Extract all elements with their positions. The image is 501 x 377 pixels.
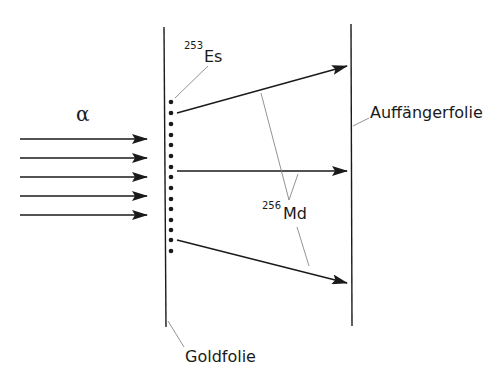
target-dot xyxy=(169,197,174,202)
md-symbol: Md xyxy=(283,204,307,223)
gold-foil-line xyxy=(164,27,166,327)
target-dot xyxy=(169,143,174,148)
catcher-foil-leader xyxy=(353,118,369,126)
md-recoil-arrows xyxy=(177,66,347,283)
alpha-beam-arrows xyxy=(20,139,147,215)
target-dot xyxy=(169,100,174,105)
es-target-dots xyxy=(169,100,174,254)
recoil-arrow-up xyxy=(177,66,347,113)
target-dot xyxy=(169,175,174,180)
target-dot xyxy=(169,165,174,170)
es-leader xyxy=(175,66,208,98)
target-dot xyxy=(169,218,174,223)
catcher-foil-line xyxy=(351,24,352,326)
md-mass-number: 256 xyxy=(262,200,281,211)
target-dot xyxy=(169,249,174,254)
recoil-arrow-down xyxy=(177,240,347,283)
gold-foil-label: Goldfolie xyxy=(185,347,256,366)
md-leader-top xyxy=(261,93,289,200)
md-leader-bottom xyxy=(297,227,309,266)
target-dot xyxy=(169,228,174,233)
target-dot xyxy=(169,207,174,212)
target-dot xyxy=(169,133,174,138)
alpha-label: α xyxy=(76,102,90,126)
target-dot xyxy=(169,154,174,159)
target-dot xyxy=(169,111,174,116)
target-dot xyxy=(169,122,174,127)
catcher-foil-label: Auffängerfolie xyxy=(370,103,483,122)
es-symbol: Es xyxy=(204,47,222,66)
gold-foil-leader xyxy=(168,321,184,347)
md-leader-middle xyxy=(289,174,298,200)
target-dot xyxy=(169,238,174,243)
diagram-canvas: α Goldfolie 253 Es 256 Md Auffänge xyxy=(0,0,501,377)
target-dot xyxy=(169,186,174,191)
es-mass-number: 253 xyxy=(184,40,203,51)
